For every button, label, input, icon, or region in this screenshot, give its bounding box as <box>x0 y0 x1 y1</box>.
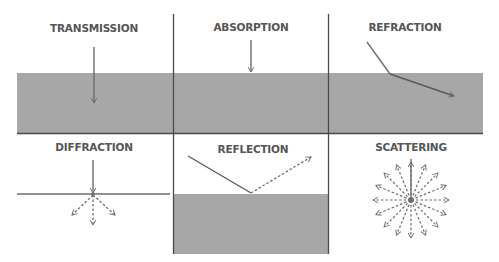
light-interactions-diagram: TRANSMISSION ABSORPTION REFRACTION DIFFR… <box>0 0 499 262</box>
scattering-ray-arrow <box>415 204 438 227</box>
scattering-ray-arrow <box>413 165 426 195</box>
refraction-incident-ray <box>367 42 390 74</box>
diffraction-ray-left-arrow <box>72 195 93 215</box>
scattering-ray-arrow <box>416 185 446 198</box>
reflection-reflected-ray-arrow <box>251 157 311 193</box>
scattering-ray-arrow <box>376 202 406 215</box>
scattering-ray-arrow <box>396 205 409 235</box>
label-scattering: SCATTERING <box>375 141 447 153</box>
label-reflection: REFLECTION <box>218 143 289 155</box>
scattering-ray-arrow <box>413 205 426 235</box>
medium-block-reflection <box>174 194 328 254</box>
reflection-incident-ray <box>188 156 251 193</box>
scattering-ray-arrow <box>396 165 409 195</box>
scattering-ray-arrow <box>376 185 406 198</box>
label-absorption: ABSORPTION <box>213 21 288 33</box>
scattering-ray-arrow <box>384 204 407 227</box>
label-transmission: TRANSMISSION <box>50 22 138 34</box>
label-refraction: REFRACTION <box>368 21 441 33</box>
diffraction-ray-right-arrow <box>93 195 115 215</box>
label-diffraction: DIFFRACTION <box>55 141 132 153</box>
scattering-ray-arrow <box>415 173 438 196</box>
scattering-ray-arrow <box>416 202 446 215</box>
scattering-point <box>408 197 414 203</box>
scattering-ray-arrow <box>384 173 407 196</box>
